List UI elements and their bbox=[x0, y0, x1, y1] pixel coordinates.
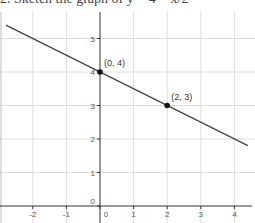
graph-line bbox=[6, 25, 248, 146]
y-tick-label: 2 bbox=[91, 135, 96, 144]
x-tick-label: 0 bbox=[104, 210, 109, 219]
y-tick-label: 3 bbox=[91, 102, 96, 111]
y-tick-label: 5 bbox=[91, 35, 96, 44]
point-marker bbox=[164, 103, 170, 109]
axes bbox=[0, 12, 252, 223]
line-series bbox=[6, 25, 248, 146]
grid-lines bbox=[0, 12, 255, 223]
point-marker bbox=[97, 69, 103, 75]
point-label: (2, 3) bbox=[171, 92, 192, 102]
x-tick-label: 1 bbox=[131, 210, 136, 219]
x-tick-label: -1 bbox=[63, 210, 71, 219]
graph-plot: -2-101234012345 (0, 4)(2, 3) bbox=[0, 0, 255, 223]
y-tick-label: 1 bbox=[91, 169, 96, 178]
x-tick-label: -2 bbox=[29, 210, 37, 219]
x-tick-label: 3 bbox=[199, 210, 204, 219]
y-tick-label: 0 bbox=[91, 197, 96, 206]
data-points: (0, 4)(2, 3) bbox=[97, 58, 192, 108]
point-label: (0, 4) bbox=[104, 58, 125, 68]
x-tick-label: 2 bbox=[165, 210, 170, 219]
x-tick-label: 4 bbox=[232, 210, 237, 219]
